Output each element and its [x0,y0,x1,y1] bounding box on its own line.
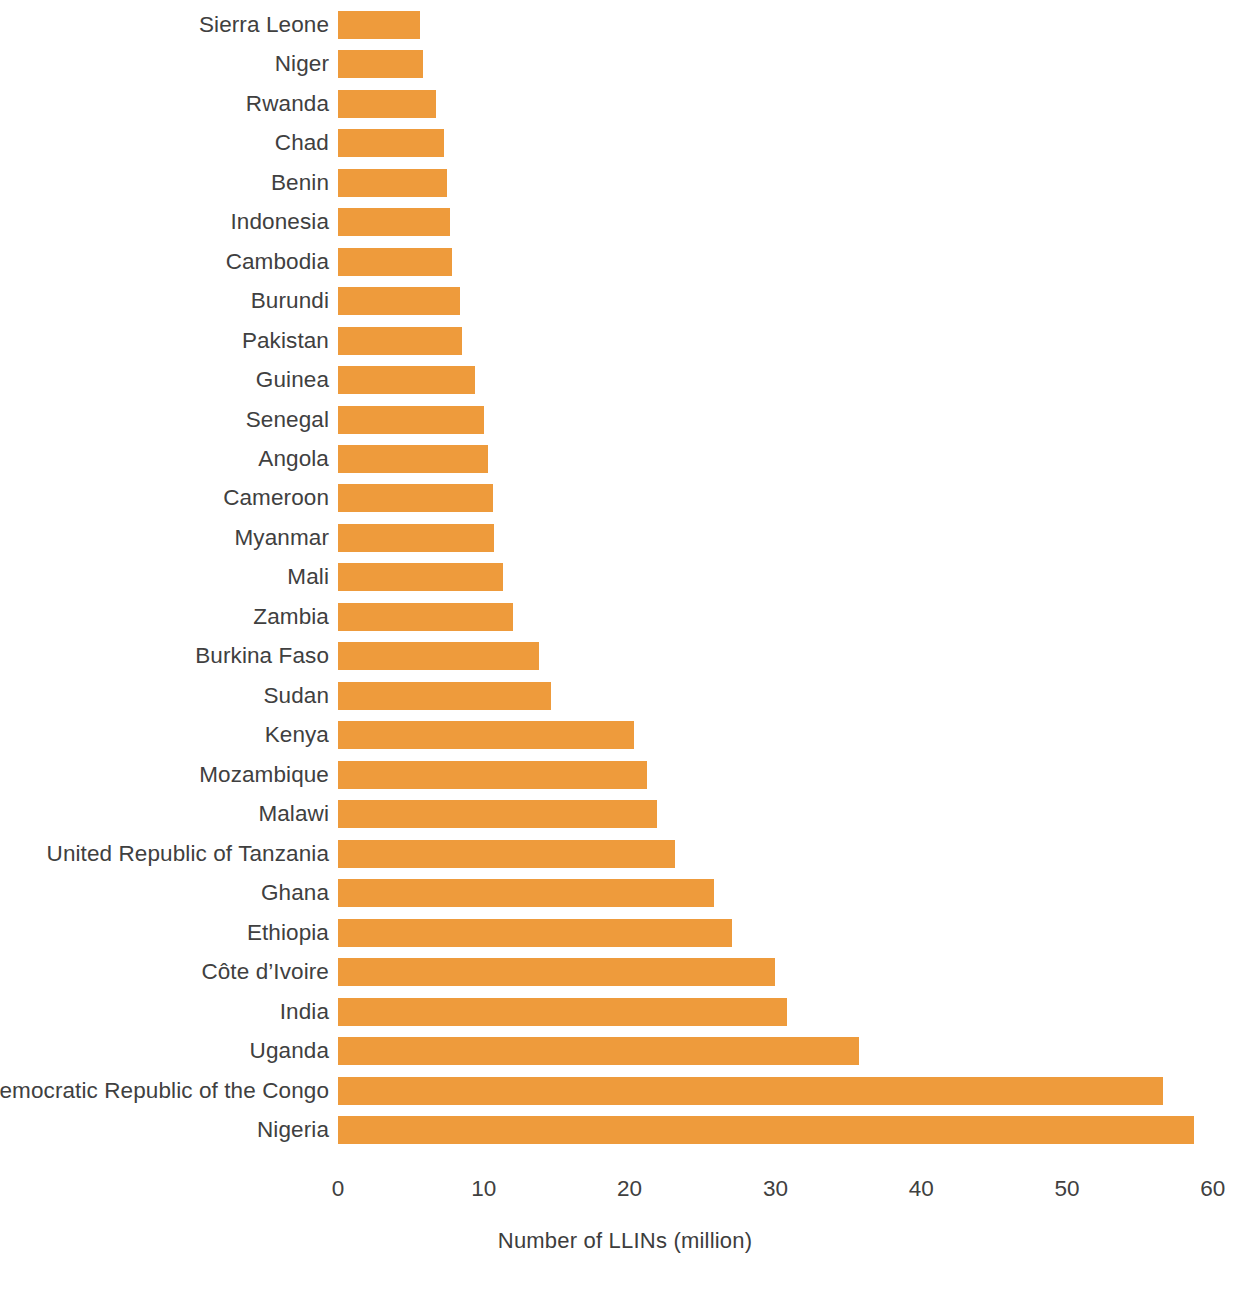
bar [338,11,420,39]
bar-category-label: Uganda [250,1039,329,1064]
bar-category-label: Mozambique [199,762,329,787]
x-tick-label: 30 [763,1176,788,1202]
bar-row: Democratic Republic of the Congo [0,1071,1250,1110]
bar [338,1077,1163,1105]
bar-category-label: India [280,999,329,1024]
bar-category-label: Zambia [253,605,329,630]
bar-category-label: Nigeria [257,1118,329,1143]
bar-row: Indonesia [0,202,1250,241]
bar-row: Ethiopia [0,913,1250,952]
bar-category-label: Senegal [246,407,329,432]
bar [338,524,494,552]
x-tick-label: 40 [909,1176,934,1202]
bar [338,248,452,276]
bar [338,406,484,434]
bar-row: Cambodia [0,242,1250,281]
bar-category-label: Malawi [258,802,329,827]
bar [338,50,423,78]
x-tick-label: 20 [617,1176,642,1202]
bar [338,327,462,355]
bar [338,800,657,828]
bar [338,840,675,868]
x-tick-label: 50 [1054,1176,1079,1202]
bar-category-label: Guinea [256,368,329,393]
bar-row: Côte d’Ivoire [0,953,1250,992]
bar-category-label: Pakistan [242,328,329,353]
bar-row: Burkina Faso [0,637,1250,676]
bar-category-label: Myanmar [235,526,329,551]
bar-row: Ghana [0,874,1250,913]
bar-category-label: Rwanda [246,91,329,116]
bar [338,998,787,1026]
bar [338,287,460,315]
bar-row: Guinea [0,360,1250,399]
bar-category-label: Sudan [263,684,329,709]
bar-category-label: Niger [275,52,329,77]
bar-row: Chad [0,123,1250,162]
bar-row: Kenya [0,716,1250,755]
bar-category-label: United Republic of Tanzania [47,841,329,866]
bar [338,445,488,473]
bar-row: Mali [0,558,1250,597]
bar-row: United Republic of Tanzania [0,834,1250,873]
bar [338,1037,859,1065]
bar [338,919,732,947]
bar-row: Malawi [0,795,1250,834]
x-tick-label: 60 [1200,1176,1225,1202]
bar-category-label: Mali [287,565,329,590]
bar [338,879,714,907]
bar-category-label: Chad [275,131,329,156]
bar-category-label: Kenya [265,723,329,748]
bar-row: Senegal [0,400,1250,439]
bar [338,761,647,789]
bar-category-label: Burundi [251,289,329,314]
bar [338,366,475,394]
bar-row: Cameroon [0,479,1250,518]
bar [338,682,551,710]
bar-category-label: Indonesia [231,210,329,235]
bar-category-label: Cameroon [223,486,329,511]
bar-category-label: Sierra Leone [199,12,329,37]
bar [338,1116,1194,1144]
bar-row: Pakistan [0,321,1250,360]
bar-row: Burundi [0,281,1250,320]
bar-category-label: Ghana [261,881,329,906]
bar-category-label: Angola [258,447,329,472]
bar [338,958,775,986]
plot-area: Sierra LeoneNigerRwandaChadBeninIndonesi… [0,0,1250,1165]
bar [338,129,444,157]
bar-row: Sudan [0,676,1250,715]
x-axis-title: Number of LLINs (million) [0,1228,1250,1254]
bar-category-label: Benin [271,170,329,195]
bar-row: Sierra Leone [0,5,1250,44]
x-tick-label: 0 [332,1176,345,1202]
bar [338,208,450,236]
bar-category-label: Cambodia [226,249,329,274]
bar-chart: Sierra LeoneNigerRwandaChadBeninIndonesi… [0,0,1250,1289]
bar-row: Uganda [0,1031,1250,1070]
bar [338,90,436,118]
bar [338,721,634,749]
bar-row: Niger [0,44,1250,83]
bar-row: Angola [0,439,1250,478]
bar [338,484,493,512]
bar [338,563,503,591]
x-axis: 0102030405060 [0,1168,1250,1208]
x-tick-label: 10 [471,1176,496,1202]
bar-category-label: Democratic Republic of the Congo [0,1078,329,1103]
bar [338,603,513,631]
bar-row: Zambia [0,597,1250,636]
bar-row: Myanmar [0,518,1250,557]
bar-row: Rwanda [0,84,1250,123]
bar-row: Benin [0,163,1250,202]
bar-row: Nigeria [0,1110,1250,1149]
bar-category-label: Ethiopia [247,920,329,945]
bar-category-label: Burkina Faso [195,644,329,669]
bar [338,169,447,197]
bar-row: India [0,992,1250,1031]
bar [338,642,539,670]
bar-row: Mozambique [0,755,1250,794]
bar-category-label: Côte d’Ivoire [201,960,329,985]
